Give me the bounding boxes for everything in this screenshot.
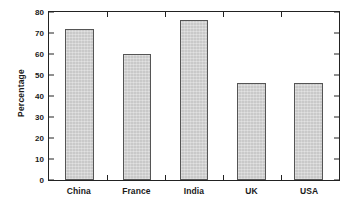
bar-usa[interactable] <box>294 83 323 180</box>
bar-china[interactable] <box>65 29 94 180</box>
x-axis-label-uk: UK <box>223 186 281 196</box>
x-axis-label-usa: USA <box>280 186 338 196</box>
bar-slot <box>223 12 280 180</box>
y-axis-title-text: Percentage <box>16 69 26 117</box>
y-axis-tick-label: 80 <box>35 8 44 17</box>
y-axis-title: Percentage <box>10 0 32 185</box>
y-axis-tick-label: 40 <box>35 92 44 101</box>
bars-container <box>49 12 339 180</box>
x-axis-tick-mark-top <box>165 12 166 17</box>
y-axis-tick-label: 70 <box>35 29 44 38</box>
bar-chart: Percentage 01020304050607080 ChinaFrance… <box>0 0 353 207</box>
x-axis-labels: ChinaFranceIndiaUKUSA <box>48 186 340 196</box>
y-axis-tick-label: 20 <box>35 134 44 143</box>
x-axis-tick-mark <box>223 175 224 180</box>
x-axis-label-france: France <box>108 186 166 196</box>
y-axis-tick-label: 50 <box>35 71 44 80</box>
bar-france[interactable] <box>123 54 152 180</box>
x-axis-tick-mark-top <box>223 12 224 17</box>
x-axis-tick-mark <box>107 175 108 180</box>
plot-area: 01020304050607080 <box>48 11 340 181</box>
y-axis-tick-label: 0 <box>40 176 44 185</box>
x-axis-tick-mark-top <box>107 12 108 17</box>
x-axis-tick-mark <box>281 175 282 180</box>
bar-slot <box>108 12 165 180</box>
bar-slot <box>165 12 222 180</box>
y-axis-tick-label: 60 <box>35 50 44 59</box>
bar-uk[interactable] <box>237 83 266 180</box>
bar-slot <box>280 12 337 180</box>
x-axis-label-china: China <box>50 186 108 196</box>
y-axis-tick-label: 10 <box>35 155 44 164</box>
x-axis-tick-mark-top <box>281 12 282 17</box>
y-axis-tick-label: 30 <box>35 113 44 122</box>
x-axis-label-india: India <box>165 186 223 196</box>
x-axis-tick-mark <box>165 175 166 180</box>
bar-india[interactable] <box>180 20 209 180</box>
bar-slot <box>51 12 108 180</box>
